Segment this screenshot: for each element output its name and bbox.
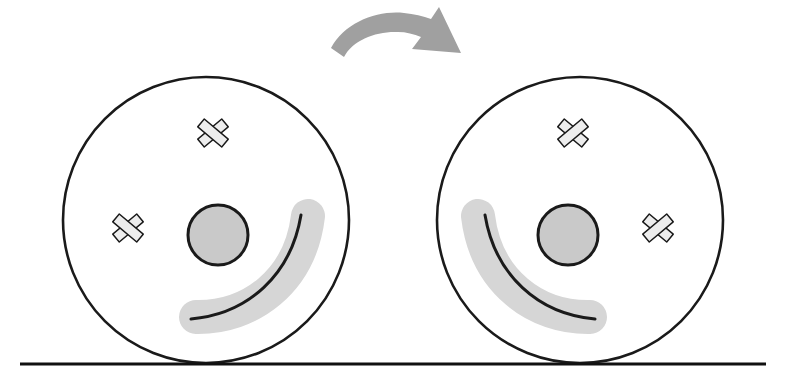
left-face <box>63 77 349 363</box>
flip-arrow-shape <box>331 7 461 57</box>
nose <box>538 205 598 265</box>
scene-canvas <box>0 0 796 389</box>
flip-arrow-icon <box>331 7 461 57</box>
nose <box>188 205 248 265</box>
right-face <box>437 77 723 363</box>
diagram-stage <box>0 0 796 389</box>
